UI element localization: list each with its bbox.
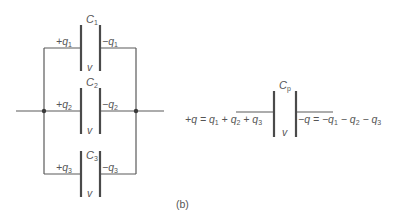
cp-voltage: v [282, 126, 288, 138]
capacitor-c2: C2 +q2 −q2 v [56, 76, 118, 136]
c1-label: C1 [86, 13, 98, 26]
equivalent-capacitor-cp: Cp v +q = q1 + q2 + q3 −q = −q1 − q2 − q… [185, 79, 381, 138]
cp-label: Cp [279, 79, 291, 93]
c1-voltage: v [87, 61, 93, 73]
c3-minus-charge: −q3 [102, 161, 118, 174]
left-charge-equation: +q = q1 + q2 + q3 [185, 113, 262, 126]
c1-minus-charge: −q1 [102, 35, 118, 48]
c1-plus-charge: +q1 [56, 35, 72, 48]
c2-label: C2 [86, 76, 98, 89]
capacitor-c1: C1 +q1 −q1 v [56, 13, 118, 73]
c3-label: C3 [86, 149, 98, 162]
c2-voltage: v [87, 124, 93, 136]
figure-label: (b) [176, 198, 189, 210]
c3-plus-charge: +q3 [56, 161, 72, 174]
c2-minus-charge: −q2 [102, 98, 118, 111]
right-charge-equation: −q = −q1 − q2 − q3 [298, 113, 381, 126]
parallel-capacitor-diagram: C1 +q1 −q1 v C2 +q2 −q2 v C3 +q3 −q3 v (… [0, 0, 403, 222]
c2-plus-charge: +q2 [56, 98, 72, 111]
junction-node-right [134, 109, 138, 113]
c3-voltage: v [87, 187, 93, 199]
junction-node-left [42, 109, 46, 113]
